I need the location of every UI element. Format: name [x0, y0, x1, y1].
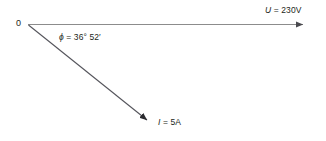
phase-angle-value: = 36° 52′ [64, 32, 101, 42]
origin-label: 0 [16, 18, 21, 28]
phasor-diagram-canvas: 0 U = 230V ϕ = 36° 52′ I = 5A [0, 0, 326, 141]
phase-angle-label: ϕ = 36° 52′ [59, 32, 101, 42]
current-phasor-label: I = 5A [158, 117, 181, 127]
voltage-value: = 230V [271, 5, 301, 15]
current-value: = 5A [160, 117, 181, 127]
voltage-phasor-label: U = 230V [265, 5, 302, 15]
